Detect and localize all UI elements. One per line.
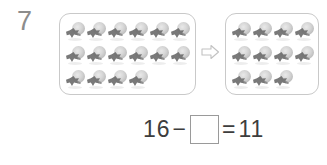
icon-shadow [297, 62, 311, 65]
icon-shadow [276, 38, 290, 41]
flower-icon [170, 20, 191, 42]
flower-icon [252, 68, 273, 90]
icon-shadow [234, 62, 248, 65]
flower-icon [273, 44, 294, 66]
icon-shadow [68, 38, 82, 41]
icon-shadow [89, 38, 103, 41]
problem-number: 7 [17, 8, 32, 35]
icon-shadow [110, 86, 124, 89]
icon-shadow [276, 62, 290, 65]
flower-icon [231, 44, 252, 66]
flower-icon [170, 44, 191, 66]
icon-shadow [89, 86, 103, 89]
minus-sign: − [171, 118, 189, 141]
flower-icon [128, 68, 149, 90]
icon-shadow [234, 86, 248, 89]
flower-icon [128, 44, 149, 66]
icon-shadow [297, 38, 311, 41]
right-arrow-icon [201, 44, 220, 60]
flower-icon [65, 68, 86, 90]
result-group-row-3 [231, 67, 314, 91]
flower-icon [65, 20, 86, 42]
icon-shadow [110, 38, 124, 41]
flower-icon [107, 68, 128, 90]
flower-icon [86, 44, 107, 66]
icon-shadow [152, 62, 166, 65]
flower-icon [128, 20, 149, 42]
result-group-row-2 [231, 43, 314, 67]
starting-group-row-3 [65, 67, 191, 91]
equals-sign: = [220, 118, 238, 141]
flower-icon [252, 20, 273, 42]
flower-icon [107, 44, 128, 66]
flower-icon [149, 20, 170, 42]
equation: 16 − = 11 [143, 110, 264, 148]
flower-icon [252, 44, 273, 66]
flower-icon [107, 20, 128, 42]
flower-icon [65, 44, 86, 66]
starting-group-row-2 [65, 43, 191, 67]
equation-minuend: 16 [143, 118, 171, 141]
starting-group-row-1 [65, 19, 191, 43]
flower-icon [86, 68, 107, 90]
equation-difference: 11 [238, 118, 264, 141]
answer-input-box[interactable] [190, 115, 219, 144]
result-group-row-1 [231, 19, 314, 43]
flower-icon [86, 20, 107, 42]
flower-icon [273, 20, 294, 42]
flower-icon [231, 20, 252, 42]
flower-icon [294, 20, 315, 42]
icon-shadow [68, 62, 82, 65]
icon-shadow [255, 86, 269, 89]
icon-shadow [68, 86, 82, 89]
result-group-box [225, 13, 319, 95]
icon-shadow [131, 86, 145, 89]
flower-icon [231, 68, 252, 90]
flower-icon [294, 44, 315, 66]
icon-shadow [173, 62, 187, 65]
starting-group-box [59, 13, 196, 95]
icon-shadow [234, 38, 248, 41]
icon-shadow [131, 62, 145, 65]
icon-shadow [131, 38, 145, 41]
icon-shadow [152, 38, 166, 41]
icon-shadow [89, 62, 103, 65]
flower-icon [273, 68, 294, 90]
icon-shadow [110, 62, 124, 65]
icon-shadow [173, 38, 187, 41]
icon-shadow [255, 38, 269, 41]
icon-shadow [255, 62, 269, 65]
flower-icon [149, 44, 170, 66]
icon-shadow [276, 86, 290, 89]
